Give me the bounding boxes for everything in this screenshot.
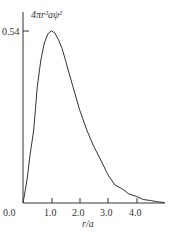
x-tick-label-4: 4.0 (129, 208, 142, 218)
x-tick-label-3: 3.0 (100, 208, 113, 218)
x-tick-label-1: 1.0 (44, 208, 57, 218)
probability-curve (23, 31, 165, 203)
y-tick-label-054: 0.54 (2, 27, 20, 37)
x-tick-label-0: 0.0 (3, 208, 16, 218)
plot-area (0, 0, 174, 233)
y-axis-label: 4πr²aψ² (31, 10, 62, 20)
x-tick-label-2: 2.0 (72, 208, 85, 218)
x-axis-label: r/a (82, 219, 94, 229)
